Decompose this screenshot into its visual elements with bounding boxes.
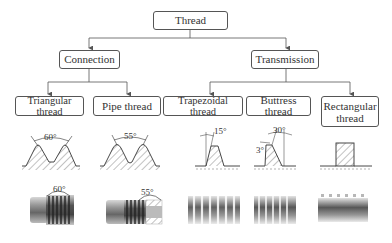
node-pipe-thread-label: Pipe thread — [102, 101, 152, 112]
pipe-angle-label: 55° — [124, 131, 137, 141]
node-transmission: Transmission — [251, 50, 319, 69]
node-transmission-label: Transmission — [256, 54, 315, 65]
node-connection-label: Connection — [64, 54, 115, 65]
pipe-thread-photo: 55° — [106, 187, 162, 224]
node-rectangular-thread-line1: Rectangular — [323, 100, 376, 112]
node-trapezoidal-thread-label: Trapezoidal thread — [164, 95, 242, 117]
buttress-angle2-label: 3° — [256, 145, 265, 155]
node-thread: Thread — [153, 11, 228, 30]
node-buttress-thread: Buttress thread — [246, 96, 311, 116]
node-pipe-thread: Pipe thread — [93, 96, 161, 116]
trapezoidal-angle-label: 15° — [214, 126, 227, 136]
node-triangular-thread: Triangular thread — [15, 96, 84, 116]
triangular-angle-label: 60° — [44, 132, 57, 142]
node-buttress-thread-label: Buttress thread — [247, 95, 310, 117]
node-triangular-thread-label: Triangular thread — [16, 95, 83, 117]
node-rectangular-thread-line2: thread — [336, 112, 363, 124]
trapezoidal-thread-profile: 15° — [195, 126, 240, 169]
buttress-thread-profile: 30° 3° — [254, 125, 296, 169]
triangular-thread-photo: 60° — [30, 184, 74, 225]
triangular-thread-profile: 60° — [22, 132, 80, 170]
pipe-photo-angle: 55° — [141, 187, 154, 197]
buttress-angle-label: 30° — [273, 125, 286, 135]
rectangular-thread-profile — [320, 143, 372, 169]
rectangular-thread-photo — [318, 194, 368, 222]
trapezoidal-thread-photo — [188, 194, 240, 226]
pipe-thread-profile: 55° — [100, 131, 160, 170]
node-thread-label: Thread — [175, 15, 206, 26]
buttress-thread-photo — [254, 194, 296, 226]
node-rectangular-thread: Rectangular thread — [321, 96, 379, 127]
node-connection: Connection — [59, 50, 120, 69]
triangular-photo-angle: 60° — [53, 184, 66, 194]
node-trapezoidal-thread: Trapezoidal thread — [163, 96, 243, 116]
